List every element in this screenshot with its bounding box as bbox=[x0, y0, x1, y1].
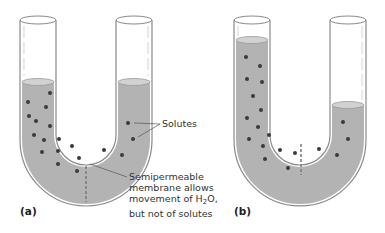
panel-label-a: (a) bbox=[20, 205, 37, 217]
membrane-label-line1: Semipermeable bbox=[129, 171, 218, 182]
membrane-label-line4: but not of solutes bbox=[129, 208, 218, 219]
solutes-label: Solutes bbox=[162, 118, 197, 129]
membrane-label-line3-pre: movement of H bbox=[129, 193, 203, 204]
panel-label-b: (b) bbox=[234, 205, 251, 217]
membrane-label-line3-post: O, bbox=[207, 193, 218, 204]
membrane-label: Semipermeable membrane allows movement o… bbox=[129, 171, 218, 219]
membrane-label-line2: membrane allows bbox=[129, 182, 218, 193]
u-tube-b bbox=[234, 16, 366, 206]
membrane-label-line3: movement of H2O, bbox=[129, 193, 218, 208]
